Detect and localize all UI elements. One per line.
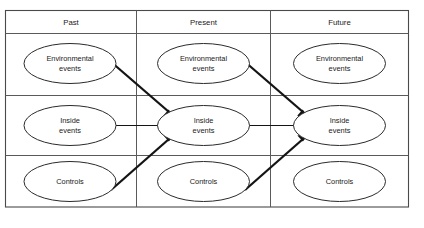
node-past-inside[interactable]: Inside events [24, 106, 116, 146]
node-label-line2: events [193, 64, 215, 73]
column-header-past: Past [63, 18, 79, 27]
node-label-line2: events [329, 64, 351, 73]
node-future-inside[interactable]: Inside events [294, 106, 386, 146]
node-past-controls[interactable]: Controls [24, 162, 116, 202]
node-label-line1: Environmental [316, 54, 364, 63]
node-present-environmental[interactable]: Environmental events [158, 44, 250, 84]
node-present-controls[interactable]: Controls [158, 162, 250, 202]
node-label-line1: Inside [60, 116, 80, 125]
diagram-canvas: Past Present Future [0, 0, 424, 228]
column-header-present: Present [190, 18, 218, 27]
node-label-line1: Environmental [46, 54, 94, 63]
node-present-inside[interactable]: Inside events [158, 106, 250, 146]
node-past-environmental[interactable]: Environmental events [24, 44, 116, 84]
node-future-controls[interactable]: Controls [294, 162, 386, 202]
node-label-line1: Controls [190, 177, 218, 186]
node-future-environmental[interactable]: Environmental events [294, 44, 386, 84]
node-label-line2: events [59, 64, 81, 73]
node-label-line1: Controls [326, 177, 354, 186]
node-label-line1: Environmental [180, 54, 228, 63]
column-headers: Past Present Future [63, 18, 351, 27]
past-present-future-diagram: Past Present Future [0, 0, 424, 228]
arrow-shaft [244, 61, 303, 112]
node-label-line1: Inside [330, 116, 350, 125]
node-label-line1: Controls [56, 177, 84, 186]
node-layer: Environmental events Environmental event… [24, 44, 386, 202]
node-label-line2: events [193, 126, 215, 135]
node-label-line2: events [329, 126, 351, 135]
node-label-line1: Inside [194, 116, 214, 125]
column-header-future: Future [328, 18, 351, 27]
node-label-line2: events [59, 126, 81, 135]
